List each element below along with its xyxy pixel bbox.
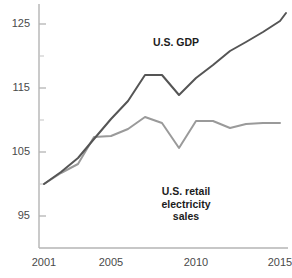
series-label-gdp: U.S. GDP xyxy=(130,36,222,49)
y-tick-label-95: 95 xyxy=(2,209,30,221)
y-tick-label-105: 105 xyxy=(2,145,30,157)
x-tick-label-2015: 2015 xyxy=(263,256,292,268)
y-tick-label-125: 125 xyxy=(2,17,30,29)
y-tick-label-115: 115 xyxy=(2,81,30,93)
y-axis-minor-ticks xyxy=(39,56,44,184)
series-line-electricity xyxy=(44,117,280,184)
x-tick-label-2005: 2005 xyxy=(94,256,128,268)
x-tick-label-2001: 2001 xyxy=(27,256,61,268)
x-tick-label-2010: 2010 xyxy=(179,256,213,268)
chart-container: 125 115 105 95 2001 2005 2010 2015 U.S. … xyxy=(0,0,292,278)
series-label-electricity: U.S. retail electricity sales xyxy=(140,185,232,223)
